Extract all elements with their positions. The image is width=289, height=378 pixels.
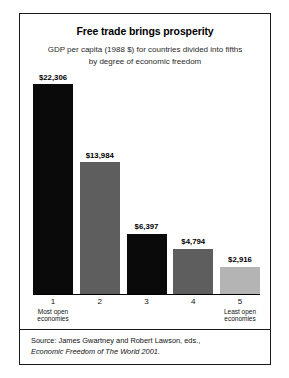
bar-rect-2	[80, 162, 120, 294]
bar-rect-1	[33, 84, 73, 294]
x-axis-line	[33, 294, 260, 295]
bar-column-1: $22,306	[33, 72, 73, 294]
chart-figure: Free trade brings prosperity GDP per cap…	[19, 13, 271, 365]
x-tick-sublabel-5: Least open economies	[220, 308, 260, 323]
bar-rect-5	[220, 267, 260, 294]
bar-group: $22,306 $13,984 $6,397 $4,794 $2,916	[33, 72, 260, 294]
chart-subtitle: GDP per capita (1988 $) for countries di…	[20, 44, 270, 67]
x-tick-number-3: 3	[127, 297, 167, 307]
x-tick-5: 5 Least open economies	[220, 297, 260, 323]
bar-value-label-4: $4,794	[181, 237, 205, 246]
chart-subtitle-line-1: GDP per capita (1988 $) for countries di…	[30, 44, 260, 56]
x-tick-sublabel-1: Most open economies	[33, 308, 73, 323]
x-tick-3: 3	[127, 297, 167, 323]
x-tick-1: 1 Most open economies	[33, 297, 73, 323]
x-tick-number-4: 4	[173, 297, 213, 307]
chart-title: Free trade brings prosperity	[20, 25, 270, 37]
chart-subtitle-line-2: by degree of economic freedom	[30, 56, 260, 68]
bar-column-4: $4,794	[173, 72, 213, 294]
x-tick-2: 2	[80, 297, 120, 323]
x-tick-number-2: 2	[80, 297, 120, 307]
x-tick-number-5: 5	[220, 297, 260, 307]
bar-value-label-2: $13,984	[86, 151, 114, 160]
plot-area: $22,306 $13,984 $6,397 $4,794 $2,916	[20, 72, 270, 294]
source-line-2: Economic Freedom of The World 2001.	[31, 347, 261, 358]
source-note: Source: James Gwartney and Robert Lawson…	[31, 336, 261, 357]
bar-column-5: $2,916	[220, 72, 260, 294]
bar-value-label-1: $22,306	[39, 73, 67, 82]
bar-rect-4	[173, 249, 213, 294]
source-line-1: Source: James Gwartney and Robert Lawson…	[31, 336, 261, 347]
source-divider	[20, 329, 270, 330]
bar-column-3: $6,397	[127, 72, 167, 294]
x-tick-number-1: 1	[33, 297, 73, 307]
x-axis-labels: 1 Most open economies 2 3 4 5 Least open…	[33, 297, 260, 323]
bar-rect-3	[127, 234, 167, 294]
x-tick-4: 4	[173, 297, 213, 323]
bar-value-label-3: $6,397	[135, 222, 159, 231]
bar-column-2: $13,984	[80, 72, 120, 294]
bar-value-label-5: $2,916	[228, 255, 252, 264]
